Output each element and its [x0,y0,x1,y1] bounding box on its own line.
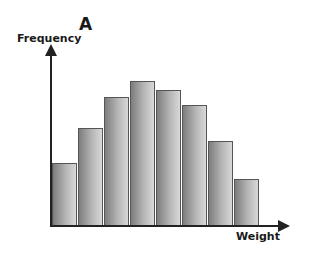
x-axis [50,225,280,227]
histogram-bars [52,0,259,225]
histogram-bar [234,179,259,225]
histogram-bar [156,90,181,225]
histogram-bar [208,141,233,225]
histogram-bar [130,81,155,225]
histogram-bar [78,128,103,225]
histogram-bar [52,163,77,225]
x-axis-label: Weight [236,230,280,243]
histogram-bar [182,105,207,225]
histogram-bar [104,97,129,225]
